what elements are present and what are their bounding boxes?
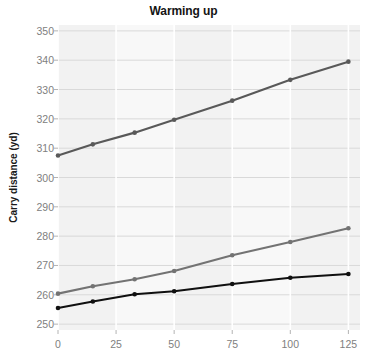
data-point xyxy=(230,98,235,103)
data-point xyxy=(346,272,351,277)
data-point xyxy=(56,291,61,296)
data-point xyxy=(346,59,351,64)
data-point xyxy=(56,306,61,311)
data-point xyxy=(132,130,137,135)
plot-area xyxy=(0,0,367,354)
data-point xyxy=(346,226,351,231)
data-point xyxy=(56,153,61,158)
data-point xyxy=(91,284,96,289)
data-point xyxy=(172,117,177,122)
data-point xyxy=(172,269,177,274)
data-point xyxy=(288,78,293,83)
data-point xyxy=(288,240,293,245)
data-point xyxy=(91,299,96,304)
data-point xyxy=(91,142,96,147)
data-point xyxy=(132,277,137,282)
data-point xyxy=(230,282,235,287)
data-point xyxy=(132,292,137,297)
data-point xyxy=(288,275,293,280)
data-point xyxy=(172,289,177,294)
data-point xyxy=(230,253,235,258)
chart-container: Warming up Carry distance (yd) 250260270… xyxy=(0,0,367,354)
